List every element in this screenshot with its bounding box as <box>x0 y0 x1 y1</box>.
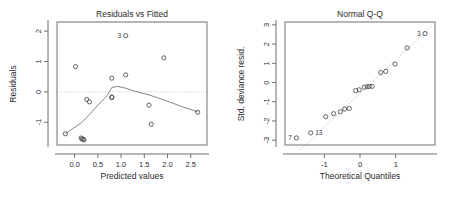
data-point <box>124 73 128 77</box>
outlier-label: 3 <box>417 30 421 37</box>
outlier-label: 3 <box>118 32 122 39</box>
data-point <box>147 103 151 107</box>
x-axis-tick-label: -1 <box>321 160 328 169</box>
data-point <box>405 46 409 50</box>
y-axis-tick-label: 2 <box>35 29 44 33</box>
data-point <box>110 76 114 80</box>
data-point <box>294 136 298 140</box>
data-point <box>309 131 313 135</box>
x-axis-title-right: Theoretical Quantiles <box>320 171 400 181</box>
panel-normal-qq: Normal Q-Q -101-3-2-101237133 Theoretica… <box>228 0 455 204</box>
y-axis-title-right: Std. deviance resid. <box>236 47 246 122</box>
y-axis-tick-label: 2 <box>263 42 272 46</box>
y-axis-tick-label: 0 <box>263 80 272 84</box>
plot-area-right: -101-3-2-101237133 <box>263 20 438 169</box>
x-axis-tick-label: 0 <box>358 160 362 169</box>
x-axis-tick-label: 0.0 <box>69 160 79 169</box>
outlier-label: 7 <box>288 134 292 141</box>
y-axis-tick-label: -3 <box>263 137 272 144</box>
data-point <box>73 65 77 69</box>
y-axis-tick-label: -1 <box>35 119 44 126</box>
residuals-vs-fitted-svg: Residuals vs Fitted 0.00.51.01.52.02.5-1… <box>0 0 228 204</box>
y-axis-title-left: Residuals <box>8 65 18 102</box>
data-point <box>347 106 351 110</box>
page-title-left: Residuals vs Fitted <box>96 9 168 19</box>
panel-residuals-vs-fitted: Residuals vs Fitted 0.00.51.01.52.02.5-1… <box>0 0 228 204</box>
data-point <box>85 97 89 101</box>
diagnostic-plots-figure: Residuals vs Fitted 0.00.51.01.52.02.5-1… <box>0 0 455 204</box>
loess-smoother-line <box>65 86 197 133</box>
data-point <box>423 31 427 35</box>
x-axis-tick-label: 2.0 <box>162 160 172 169</box>
y-axis-tick-label: 1 <box>35 59 44 63</box>
data-point <box>87 100 91 104</box>
x-axis-tick-label: 1.0 <box>116 160 126 169</box>
data-point <box>124 34 128 38</box>
y-axis-tick-label: 0 <box>35 90 44 94</box>
page-title-right: Normal Q-Q <box>337 9 383 19</box>
y-axis-tick-label: -1 <box>263 98 272 105</box>
data-point <box>196 110 200 114</box>
data-point <box>393 62 397 66</box>
y-axis-tick-label: 3 <box>263 23 272 27</box>
data-point <box>384 69 388 73</box>
normal-qq-svg: Normal Q-Q -101-3-2-101237133 Theoretica… <box>228 0 455 204</box>
x-axis-title-left: Predicted values <box>101 171 164 181</box>
data-point <box>149 122 153 126</box>
plot-frame <box>285 22 435 145</box>
x-axis-tick-label: 2.5 <box>186 160 196 169</box>
plot-frame <box>57 22 207 145</box>
plot-area-left: 0.00.51.01.52.02.5-10123 <box>35 20 210 169</box>
data-point <box>331 112 335 116</box>
data-point <box>370 84 374 88</box>
outlier-label: 13 <box>315 129 323 136</box>
data-point <box>162 56 166 60</box>
y-axis-tick-label: -2 <box>263 118 272 125</box>
x-axis-tick-label: 1.5 <box>139 160 149 169</box>
x-axis-tick-label: 0.5 <box>93 160 103 169</box>
data-point <box>324 115 328 119</box>
y-axis-tick-label: 1 <box>263 61 272 65</box>
data-point <box>343 107 347 111</box>
x-axis-tick-label: 1 <box>394 160 398 169</box>
